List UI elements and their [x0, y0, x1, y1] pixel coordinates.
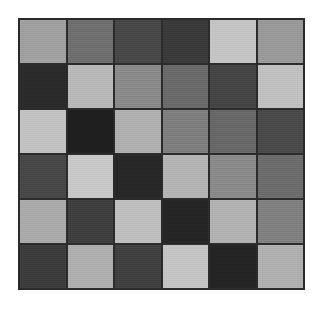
heatmap-cell: [20, 155, 66, 198]
heatmap-cell: [20, 110, 66, 153]
heatmap-cell: [20, 245, 66, 288]
heatmap-cell: [163, 65, 209, 108]
heatmap-cell: [210, 110, 256, 153]
heatmap-cell: [20, 200, 66, 243]
heatmap-grid: [18, 18, 305, 290]
heatmap-cell: [20, 65, 66, 108]
heatmap-cell: [115, 65, 161, 108]
heatmap-cell: [163, 20, 209, 63]
heatmap-cell: [210, 65, 256, 108]
heatmap-cell: [115, 110, 161, 153]
heatmap-cell: [258, 20, 304, 63]
heatmap-cell: [163, 200, 209, 243]
heatmap-cell: [210, 155, 256, 198]
heatmap-cell: [258, 110, 304, 153]
heatmap-cell: [68, 245, 114, 288]
heatmap-cell: [163, 155, 209, 198]
heatmap-cell: [258, 200, 304, 243]
heatmap-cell: [20, 20, 66, 63]
heatmap-figure: [0, 0, 324, 310]
heatmap-cell: [115, 245, 161, 288]
heatmap-cell: [163, 245, 209, 288]
heatmap-cell: [258, 155, 304, 198]
heatmap-cell: [68, 200, 114, 243]
heatmap-cell: [68, 110, 114, 153]
heatmap-cell: [258, 65, 304, 108]
heatmap-cell: [115, 200, 161, 243]
heatmap-cell: [210, 245, 256, 288]
heatmap-cell: [68, 65, 114, 108]
heatmap-cell: [115, 20, 161, 63]
heatmap-cell: [115, 155, 161, 198]
heatmap-cell: [210, 200, 256, 243]
heatmap-cell: [68, 20, 114, 63]
heatmap-cell: [258, 245, 304, 288]
heatmap-cell: [210, 20, 256, 63]
heatmap-cell: [68, 155, 114, 198]
heatmap-cell: [163, 110, 209, 153]
